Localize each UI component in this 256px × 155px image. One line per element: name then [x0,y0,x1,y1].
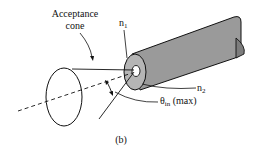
figure-caption: (b) [115,134,127,145]
acceptance-cone-base [46,68,82,126]
theta-angle-arc [107,82,112,93]
arrowhead-icon [90,56,94,61]
acceptance-label: Acceptance [52,8,99,19]
cone-label: cone [66,20,85,31]
n1-leader [124,30,127,58]
arrowhead-icon [109,91,113,96]
theta-suffix: (max) [170,95,196,106]
fiber-axis-dashed [18,73,132,111]
n1-label: n1 [119,17,128,32]
fiber-cylinder [132,17,241,90]
cone-lower-edge [99,72,134,119]
theta-max-label: θin (max) [160,95,197,110]
n1-subscript: 1 [124,22,128,30]
theta-leader [115,92,158,102]
optical-fiber-acceptance-cone-diagram [0,0,256,155]
n2-subscript: 2 [202,87,206,95]
fiber-core [132,66,140,77]
acceptance-leader [80,33,92,57]
n2-label: n2 [197,82,206,97]
